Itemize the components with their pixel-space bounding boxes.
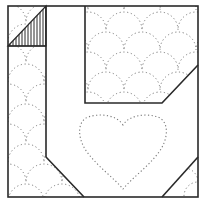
clamshell-quilting-left-strip [0,44,98,202]
clamshell-quilting-top-right [52,0,206,110]
left-strip-edge [46,6,84,197]
quilt-block-diagram [0,0,206,211]
bottom-right-corner-edge [162,157,198,197]
hatched-triangle [8,6,46,46]
heart-quilting [80,115,167,189]
